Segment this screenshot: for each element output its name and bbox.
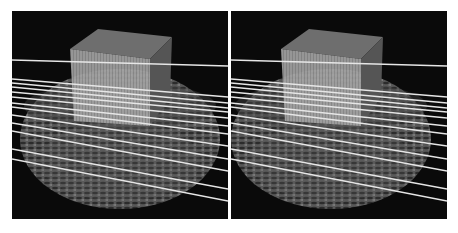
left-render [12,11,228,219]
cube-object [281,29,383,126]
stereo-right-panel [231,11,447,219]
right-render [231,11,447,219]
stereo-left-panel [12,11,228,219]
